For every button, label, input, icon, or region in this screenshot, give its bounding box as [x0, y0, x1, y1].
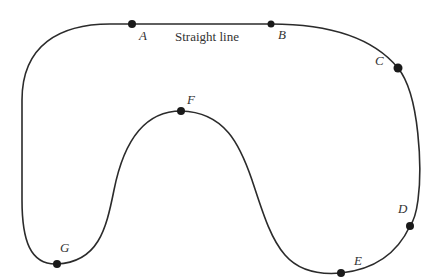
point-e-label: E — [353, 253, 362, 268]
point-g-label: G — [60, 240, 70, 255]
point-d-label: D — [397, 201, 408, 216]
point-g-marker — [53, 260, 61, 268]
track-diagram: A B C D E F G Straight line — [0, 0, 431, 279]
point-d-marker — [406, 222, 414, 230]
point-f-label: F — [186, 92, 196, 107]
point-a-marker — [128, 20, 136, 28]
closed-track-curve — [22, 24, 420, 273]
point-c-marker — [394, 64, 403, 73]
point-e-marker — [337, 269, 345, 277]
point-c-label: C — [375, 53, 384, 68]
straight-line-caption: Straight line — [175, 29, 239, 44]
point-a-label: A — [138, 28, 147, 43]
point-f-marker — [177, 107, 185, 115]
point-b-marker — [268, 21, 275, 28]
point-b-label: B — [278, 27, 286, 42]
